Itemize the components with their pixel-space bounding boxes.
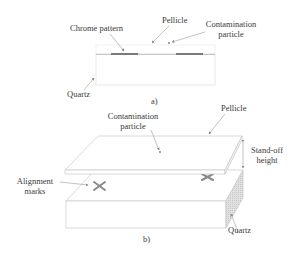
leader-pellicle-b	[209, 114, 225, 134]
leader-contamination	[172, 32, 205, 42]
figure-b-perspective	[60, 114, 243, 232]
quartz-front-face	[66, 201, 226, 228]
chrome-pattern-right	[176, 53, 203, 55]
label-standoff-height: Stand-off height	[247, 146, 287, 165]
pellicle-front-edge	[65, 170, 225, 174]
label-chrome-pattern: Chrome pattern	[70, 24, 123, 34]
leader-pellicle	[152, 26, 169, 43]
caption-b: b)	[143, 235, 150, 245]
contamination-particle-b	[159, 151, 161, 153]
label-contamination-b: Contamination particle	[103, 112, 163, 131]
label-quartz-b: Quartz	[228, 226, 251, 236]
figure-a-cross-section	[84, 26, 215, 90]
chrome-pattern-left	[111, 53, 138, 55]
label-pellicle-b: Pellicle	[221, 104, 247, 114]
contamination-particle	[168, 42, 170, 44]
quartz-top-face	[66, 170, 243, 201]
label-alignment-marks: Alignment marks	[12, 177, 58, 196]
label-pellicle-a: Pellicle	[162, 16, 188, 26]
label-contamination-a: Contamination particle	[202, 20, 260, 39]
pellicle-top-face	[65, 136, 242, 170]
caption-a: a)	[151, 97, 158, 107]
leader-chrome	[110, 34, 124, 51]
pellicle-frame	[96, 45, 215, 54]
label-quartz-a: Quartz	[67, 90, 90, 100]
quartz-substrate	[96, 54, 215, 85]
